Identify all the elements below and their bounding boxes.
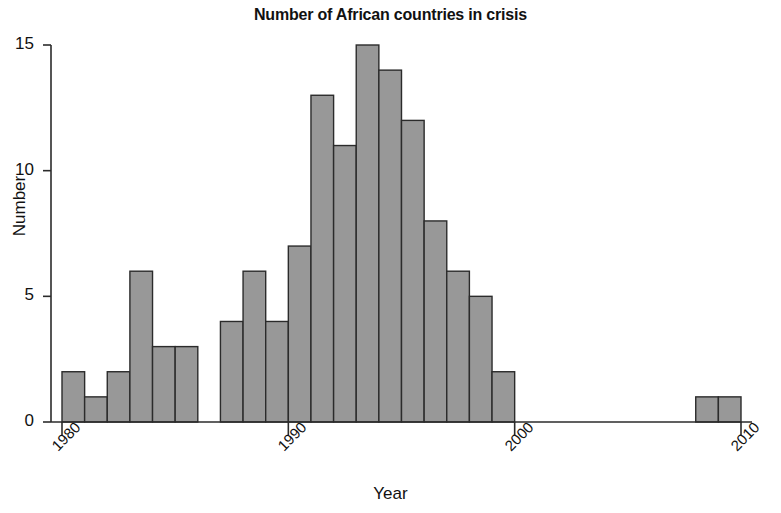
- histogram-bar: [107, 372, 130, 422]
- histogram-bar: [696, 397, 719, 422]
- histogram-bar: [243, 271, 266, 422]
- histogram-bar: [220, 321, 243, 422]
- histogram-bar: [130, 271, 153, 422]
- y-tick-label: 0: [0, 411, 34, 431]
- histogram-bar: [153, 347, 176, 422]
- histogram-bar: [311, 95, 334, 422]
- histogram-bar: [447, 271, 470, 422]
- bars-layer: [62, 45, 741, 422]
- histogram-bar: [175, 347, 198, 422]
- histogram-bar: [85, 397, 108, 422]
- histogram-bar: [62, 372, 85, 422]
- histogram-bar: [492, 372, 515, 422]
- histogram-bar: [379, 70, 402, 422]
- histogram-bar: [402, 120, 425, 422]
- histogram-chart: Number of African countries in crisis Nu…: [0, 0, 781, 513]
- histogram-bar: [334, 146, 357, 422]
- histogram-bar: [718, 397, 741, 422]
- y-tick-label: 10: [0, 160, 34, 180]
- histogram-bar: [266, 321, 289, 422]
- y-tick-label: 15: [0, 34, 34, 54]
- histogram-bar: [288, 246, 311, 422]
- plot-area: [0, 0, 781, 513]
- y-tick-label: 5: [0, 285, 34, 305]
- histogram-bar: [356, 45, 379, 422]
- histogram-bar: [469, 296, 492, 422]
- histogram-bar: [424, 221, 447, 422]
